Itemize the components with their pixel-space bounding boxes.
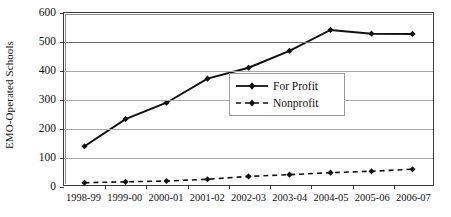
- x-axis-tick-label: 1999-00: [107, 192, 142, 203]
- y-axis-tick-label: 200: [39, 122, 56, 134]
- data-point-marker: [409, 31, 415, 37]
- x-axis-tick: [146, 185, 147, 189]
- y-axis-tick-label: 600: [39, 6, 56, 18]
- x-axis-tick-labels: 1998-991999-002000-012001-022002-032003-…: [63, 192, 434, 212]
- y-axis-tick-label: 100: [39, 151, 56, 163]
- y-axis-tick-label: 0: [50, 180, 56, 192]
- data-point-marker: [368, 168, 374, 174]
- legend-swatch-dashed: [235, 97, 269, 109]
- y-axis-tick-label: 300: [39, 93, 56, 105]
- x-axis-tick-label: 2006-07: [396, 192, 431, 203]
- legend-label-nonprofit: Nonprofit: [273, 97, 318, 109]
- gridline: [64, 71, 433, 72]
- data-point-marker: [245, 65, 251, 71]
- data-point-marker: [409, 166, 415, 172]
- chart-legend: For Profit Nonprofit: [229, 73, 345, 116]
- data-point-marker: [204, 176, 210, 182]
- x-axis-tick: [188, 185, 189, 189]
- x-axis-tick: [270, 185, 271, 189]
- x-axis-tick-label: 2000-01: [149, 192, 184, 203]
- data-point-marker: [163, 178, 169, 184]
- gridline: [64, 129, 433, 130]
- x-axis-tick: [105, 185, 106, 189]
- legend-swatch-solid: [235, 80, 269, 92]
- data-point-marker: [368, 31, 374, 37]
- x-axis-tick-label: 2002-03: [231, 192, 266, 203]
- y-axis-tick: [60, 42, 64, 43]
- gridline: [64, 42, 433, 43]
- legend-item-for-profit: For Profit: [235, 77, 339, 94]
- y-axis-tick: [60, 129, 64, 130]
- x-axis-tick: [394, 185, 395, 189]
- data-point-marker: [286, 172, 292, 178]
- x-axis-tick: [311, 185, 312, 189]
- legend-item-nonprofit: Nonprofit: [235, 94, 339, 111]
- x-axis-tick-label: 1998-99: [66, 192, 101, 203]
- y-axis-title: EMO-Operated Schools: [0, 0, 18, 190]
- x-axis-tick-label: 2003-04: [272, 192, 307, 203]
- y-axis-tick: [60, 158, 64, 159]
- legend-label-for-profit: For Profit: [273, 80, 318, 92]
- y-axis-title-text: EMO-Operated Schools: [3, 41, 15, 149]
- data-point-marker: [81, 180, 87, 186]
- y-axis-tick: [60, 13, 64, 14]
- y-axis-tick: [60, 71, 64, 72]
- y-axis-tick: [60, 187, 64, 188]
- y-axis-tick-label: 400: [39, 64, 56, 76]
- x-axis-tick: [353, 185, 354, 189]
- gridline: [64, 158, 433, 159]
- x-axis-tick-label: 2005-06: [355, 192, 390, 203]
- chart-figure: EMO-Operated Schools 0100200300400500600…: [0, 0, 451, 217]
- x-axis-tick-label: 2001-02: [190, 192, 225, 203]
- y-axis-tick-label: 500: [39, 35, 56, 47]
- x-axis-tick: [229, 185, 230, 189]
- y-axis-tick-labels: 0100200300400500600: [20, 0, 60, 217]
- data-point-marker: [122, 179, 128, 185]
- data-point-marker: [327, 170, 333, 176]
- x-axis-tick-label: 2004-05: [313, 192, 348, 203]
- data-point-marker: [245, 173, 251, 179]
- y-axis-tick: [60, 100, 64, 101]
